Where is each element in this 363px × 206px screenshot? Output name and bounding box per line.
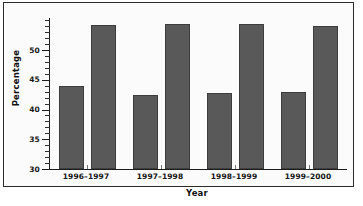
bar <box>281 92 306 169</box>
bar <box>91 25 116 169</box>
bar <box>59 86 84 169</box>
bar <box>165 24 190 169</box>
bar <box>133 95 158 169</box>
y-tick-label: 30 <box>16 165 40 174</box>
x-tick-label: 1998–1999 <box>197 172 271 181</box>
x-axis-line <box>42 169 347 170</box>
bar-pair-separator <box>235 165 236 169</box>
chart-figure: Percentage 3035404550 1996–19971997–1998… <box>0 0 363 206</box>
x-tick-label: 1999–2000 <box>271 172 345 181</box>
bar <box>239 24 264 169</box>
bar <box>313 26 338 169</box>
bar-groups <box>49 18 345 169</box>
y-tick-label: 50 <box>16 46 40 55</box>
y-tick-label: 45 <box>16 75 40 84</box>
bar-pair-separator <box>309 165 310 169</box>
y-tick-major <box>42 169 50 170</box>
x-axis-title: Year <box>49 188 345 198</box>
x-tick-label: 1997–1998 <box>123 172 197 181</box>
y-tick-label: 40 <box>16 105 40 114</box>
x-tick-label: 1996–1997 <box>49 172 123 181</box>
y-axis-tick-labels: 3035404550 <box>10 0 40 206</box>
bar <box>207 93 232 169</box>
bar-pair-separator <box>161 165 162 169</box>
y-tick-label: 35 <box>16 135 40 144</box>
bar-pair-separator <box>87 165 88 169</box>
